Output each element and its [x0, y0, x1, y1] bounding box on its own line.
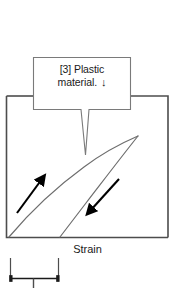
callout-text: [3] Plastic material.↓ — [34, 63, 130, 89]
x-axis-label: Strain — [0, 243, 175, 255]
loading-curve — [9, 136, 138, 237]
unloading-arrow — [90, 179, 119, 211]
callout-line-2-text: material. — [58, 76, 97, 88]
unloading-curve — [60, 136, 138, 237]
dimension-bracket — [11, 258, 59, 288]
loading-arrow — [17, 179, 42, 213]
down-arrow-icon: ↓ — [97, 77, 106, 88]
figure-canvas: [3] Plastic material.↓ Strain — [0, 0, 175, 288]
callout-line-2: material.↓ — [34, 76, 130, 89]
callout-line-1: [3] Plastic — [34, 63, 130, 76]
